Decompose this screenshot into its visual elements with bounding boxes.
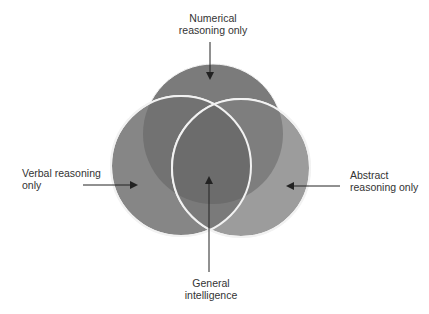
- numerical-label-line2: reasoning only: [179, 24, 247, 36]
- general-label-line1: General: [185, 277, 238, 289]
- numerical-label-line1: Numerical: [179, 12, 247, 24]
- abstract-label-line2: reasoning only: [350, 181, 418, 193]
- verbal-reasoning-label: Verbal reasoning only: [22, 167, 101, 191]
- numerical-reasoning-label: Numerical reasoning only: [179, 12, 247, 36]
- verbal-label-line2: only: [22, 179, 101, 191]
- venn-diagram: [0, 0, 429, 314]
- abstract-label-line1: Abstract: [350, 169, 418, 181]
- general-label-line2: intelligence: [185, 289, 238, 301]
- general-intelligence-label: General intelligence: [185, 277, 238, 301]
- abstract-reasoning-label: Abstract reasoning only: [350, 169, 418, 193]
- verbal-label-line1: Verbal reasoning: [22, 167, 101, 179]
